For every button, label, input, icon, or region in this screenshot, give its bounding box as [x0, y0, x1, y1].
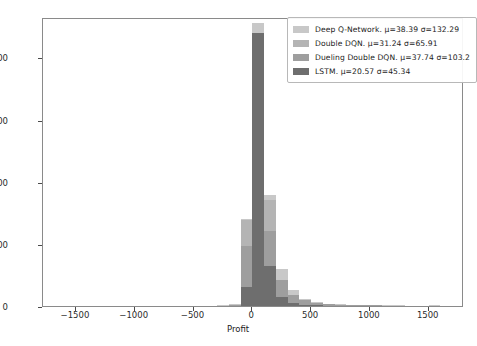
histogram-bar: [241, 287, 253, 306]
x-tick-mark: [134, 307, 135, 311]
legend-item-label: Dueling Double DQN. μ=37.74 σ=103.2: [315, 53, 470, 62]
legend-item[interactable]: Double DQN. μ=31.24 σ=65.91: [293, 36, 470, 50]
legend-swatch-double-dqn: [293, 40, 309, 47]
legend-item[interactable]: Dueling Double DQN. μ=37.74 σ=103.2: [293, 50, 470, 64]
histogram-bar: [346, 305, 358, 306]
legend-item[interactable]: Deep Q-Network. μ=38.39 σ=132.29: [293, 22, 470, 36]
x-tick-mark: [193, 307, 194, 311]
y-tick-label: 100: [0, 240, 13, 250]
x-axis-label: Profit: [0, 324, 476, 334]
y-tick-label: 300: [0, 116, 13, 126]
legend-item[interactable]: LSTM. μ=20.57 σ=45.34: [293, 64, 470, 78]
histogram-bar: [252, 33, 264, 306]
legend-item-label: Double DQN. μ=31.24 σ=65.91: [315, 39, 438, 48]
histogram-bar: [323, 304, 335, 306]
histogram-bar: [370, 305, 382, 306]
histogram-bar: [217, 305, 229, 306]
x-tick-label: 1500: [417, 310, 439, 320]
x-tick-mark: [428, 307, 429, 311]
histogram-bar: [335, 305, 347, 306]
histogram-bar: [311, 305, 323, 306]
legend-item-label: Deep Q-Network. μ=38.39 σ=132.29: [315, 25, 459, 34]
histogram-bar: [358, 305, 370, 306]
x-tick-label: −500: [181, 310, 204, 320]
x-tick-mark: [75, 307, 76, 311]
y-tick-label: 0: [0, 302, 13, 312]
histogram-bar: [276, 297, 288, 306]
histogram-bar: [264, 266, 276, 306]
y-tick-mark: [38, 307, 42, 308]
x-tick-label: −1000: [119, 310, 148, 320]
x-tick-mark: [310, 307, 311, 311]
x-tick-label: 0: [249, 310, 254, 320]
x-tick-mark: [251, 307, 252, 311]
legend-item-label: LSTM. μ=20.57 σ=45.34: [315, 67, 410, 76]
x-tick-label: −1500: [61, 310, 90, 320]
legend-swatch-dueling-double-dqn: [293, 54, 309, 61]
histogram-bar: [429, 305, 441, 306]
x-tick-label: 500: [302, 310, 318, 320]
histogram-bar: [229, 305, 241, 306]
histogram-bar: [393, 305, 405, 306]
x-tick-mark: [369, 307, 370, 311]
legend: Deep Q-Network. μ=38.39 σ=132.29Double D…: [287, 17, 477, 83]
histogram-bar: [299, 305, 311, 306]
y-tick-label: 200: [0, 178, 13, 188]
histogram-bar: [382, 305, 394, 306]
histogram-bar: [288, 303, 300, 306]
y-tick-label: 400: [0, 53, 13, 63]
x-tick-label: 1000: [358, 310, 380, 320]
legend-swatch-lstm: [293, 68, 309, 75]
legend-swatch-deep-q-network: [293, 26, 309, 33]
